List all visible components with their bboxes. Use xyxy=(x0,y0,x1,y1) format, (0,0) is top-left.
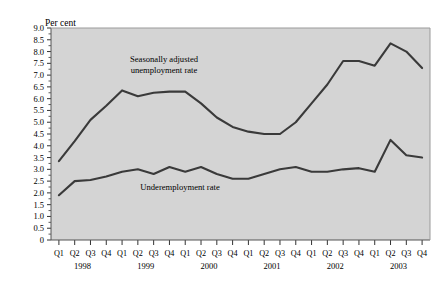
y-tick-label: 6.0 xyxy=(33,94,44,104)
x-tick-label: Q3 xyxy=(212,249,222,258)
y-tick-label: 1.5 xyxy=(33,200,44,210)
x-tick-label: Q3 xyxy=(149,249,159,258)
y-tick-label: 8.5 xyxy=(33,35,44,45)
x-tick-label: Q1 xyxy=(180,249,190,258)
y-tick-label: 0 xyxy=(40,235,44,245)
x-tick-label: Q4 xyxy=(354,249,364,258)
unemployment-rate-annotation: unemployment rate xyxy=(131,65,198,75)
y-tick-label: 5.5 xyxy=(33,105,44,115)
x-year-label: 2002 xyxy=(327,261,344,271)
x-year-label: 1998 xyxy=(74,261,91,271)
y-tick-label: 5.0 xyxy=(33,117,44,127)
x-tick-label: Q1 xyxy=(243,249,253,258)
y-tick-label: 8.0 xyxy=(33,47,44,57)
y-tick-label: 1.0 xyxy=(33,211,44,221)
x-year-label: 2003 xyxy=(390,261,407,271)
x-tick-label: Q3 xyxy=(275,249,285,258)
chart-figure: 00.51.01.52.02.53.03.54.04.55.05.56.06.5… xyxy=(0,0,438,284)
x-tick-label: Q4 xyxy=(101,249,111,258)
y-tick-label: 2.5 xyxy=(33,176,44,186)
chart-canvas: 00.51.01.52.02.53.03.54.04.55.05.56.06.5… xyxy=(0,0,438,284)
x-tick-label: Q3 xyxy=(401,249,411,258)
x-tick-label: Q2 xyxy=(133,249,143,258)
y-tick-label: 6.5 xyxy=(33,82,44,92)
x-year-label: 2000 xyxy=(200,261,217,271)
y-axis-tick-labels: 00.51.01.52.02.53.03.54.04.55.05.56.06.5… xyxy=(33,23,44,245)
x-tick-label: Q4 xyxy=(228,249,238,258)
x-tick-label: Q1 xyxy=(54,249,64,258)
y-axis-unit-label: Per cent xyxy=(45,18,76,28)
x-tick-label: Q4 xyxy=(164,249,174,258)
y-tick-label: 4.0 xyxy=(33,141,44,151)
x-tick-label: Q2 xyxy=(196,249,206,258)
x-tick-label: Q3 xyxy=(338,249,348,258)
y-tick-label: 7.0 xyxy=(33,70,44,80)
x-tick-label: Q4 xyxy=(291,249,301,258)
x-tick-label: Q1 xyxy=(117,249,127,258)
y-tick-label: 0.5 xyxy=(33,223,44,233)
x-tick-label: Q3 xyxy=(85,249,95,258)
x-tick-label: Q1 xyxy=(370,249,380,258)
x-tick-label: Q2 xyxy=(259,249,269,258)
y-tick-label: 3.5 xyxy=(33,153,44,163)
y-tick-label: 7.5 xyxy=(33,58,44,68)
x-tick-label: Q2 xyxy=(322,249,332,258)
y-tick-label: 4.5 xyxy=(33,129,44,139)
underemployment-rate-annotation: Underemployment rate xyxy=(140,182,220,192)
y-tick-label: 9.0 xyxy=(33,23,44,33)
x-year-label: 1999 xyxy=(137,261,154,271)
x-tick-label: Q4 xyxy=(417,249,427,258)
x-year-label: 2001 xyxy=(264,261,281,271)
plot-area-background xyxy=(51,28,430,240)
y-tick-label: 3.0 xyxy=(33,164,44,174)
x-tick-label: Q2 xyxy=(70,249,80,258)
x-tick-label: Q1 xyxy=(307,249,317,258)
unemployment-rate-annotation: Seasonally adjusted xyxy=(130,54,199,64)
x-tick-label: Q2 xyxy=(386,249,396,258)
y-tick-label: 2.0 xyxy=(33,188,44,198)
